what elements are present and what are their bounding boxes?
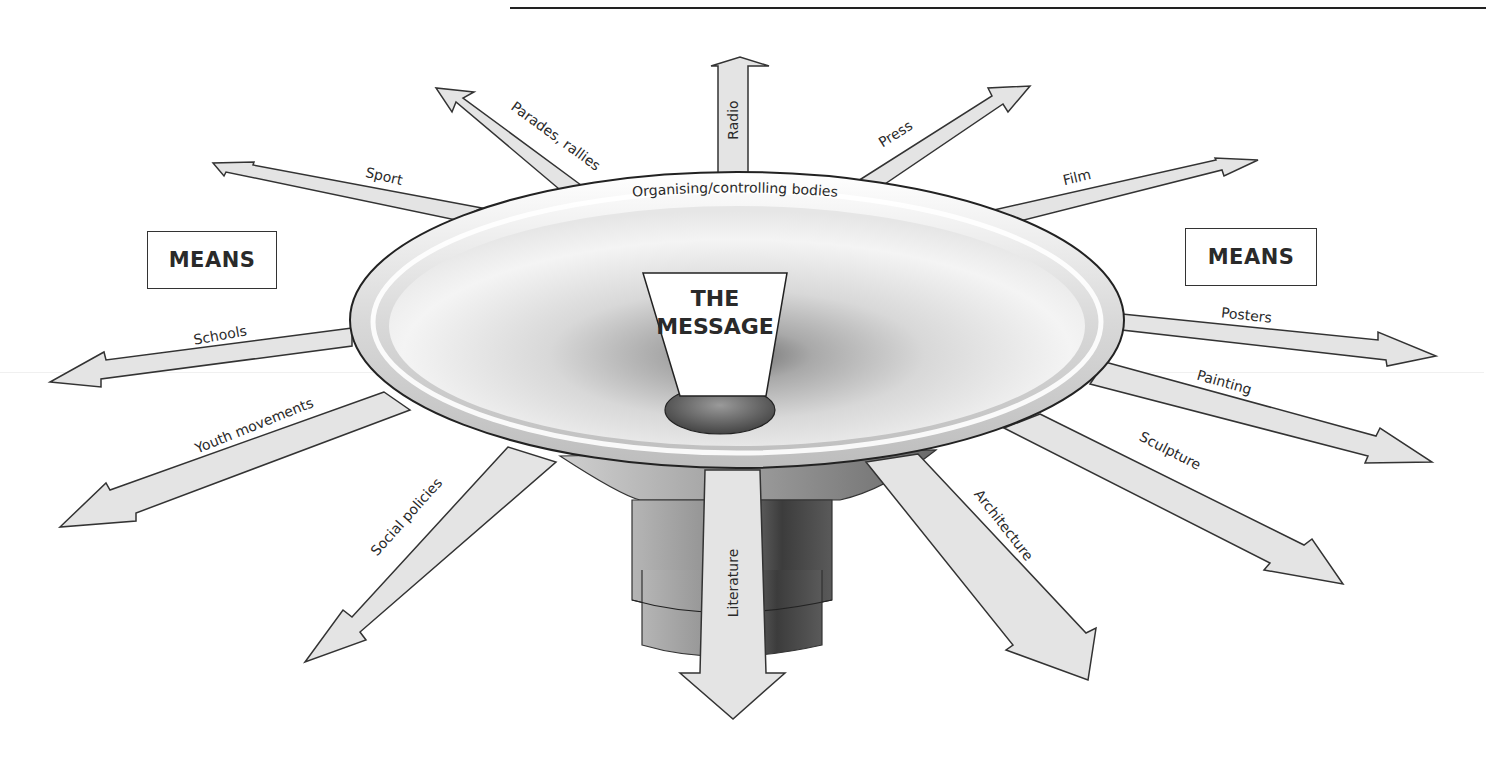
arrow-painting: Painting	[1090, 362, 1432, 463]
means-label-left: MEANS	[147, 231, 277, 289]
arrow-label-parades-rallies: Parades, rallies	[508, 98, 603, 173]
arrow-youth-movements: Youth movements	[60, 392, 410, 527]
arrow-label-radio: Radio	[725, 100, 741, 139]
arrow-label-press: Press	[875, 117, 915, 150]
arrow-posters: Posters	[1122, 304, 1436, 366]
arrow-label-film: Film	[1061, 166, 1092, 188]
arrow-label-sport: Sport	[364, 164, 405, 188]
means-label-right: MEANS	[1185, 228, 1317, 286]
arrow-parades-rallies: Parades, rallies	[436, 88, 604, 194]
arrow-schools: Schools	[50, 323, 352, 387]
message-line-2: MESSAGE	[656, 314, 774, 339]
arrow-sport: Sport	[213, 162, 482, 220]
message-line-1: THE	[691, 286, 739, 311]
arrow-film: Film	[985, 158, 1258, 222]
arrow-press: Press	[850, 86, 1030, 190]
arrow-label-posters: Posters	[1220, 304, 1272, 325]
arrow-social-policies: Social policies	[305, 447, 556, 662]
arrow-architecture: Architecture	[866, 454, 1096, 680]
arrow-sculpture: Sculpture	[1004, 414, 1343, 584]
arrow-radio: Radio	[711, 57, 769, 178]
arrow-label-literature: Literature	[725, 549, 741, 618]
arrow-label-sculpture: Sculpture	[1137, 428, 1204, 473]
